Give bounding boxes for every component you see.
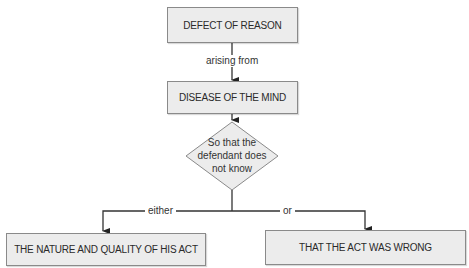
- node-nature-label: THE NATURE AND QUALITY OF HIS ACT: [14, 244, 198, 255]
- decision-text: So that the defendant does not know: [192, 136, 272, 175]
- node-defect-label: DEFECT OF REASON: [183, 20, 281, 31]
- node-wrong-label: THAT THE ACT WAS WRONG: [299, 242, 432, 253]
- decision-line-3: not know: [192, 162, 272, 175]
- node-disease-of-the-mind: DISEASE OF THE MIND: [167, 81, 298, 114]
- edge-or: [232, 211, 365, 229]
- node-defect-of-reason: DEFECT OF REASON: [167, 7, 298, 43]
- decision-line-1: So that the: [192, 136, 272, 149]
- node-act-was-wrong: THAT THE ACT WAS WRONG: [265, 230, 466, 265]
- node-disease-label: DISEASE OF THE MIND: [179, 92, 286, 103]
- node-nature-and-quality: THE NATURE AND QUALITY OF HIS ACT: [6, 233, 206, 266]
- decision-line-2: defendant does: [192, 149, 272, 162]
- edge-label-either: either: [145, 205, 176, 217]
- edge-label-or: or: [280, 205, 295, 217]
- edge-label-arising-from: arising from: [203, 55, 261, 67]
